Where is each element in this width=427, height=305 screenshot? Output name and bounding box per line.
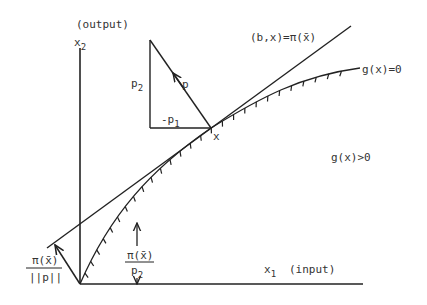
norm-numerator: π(x̄) <box>32 254 59 267</box>
hatch-mark <box>160 168 161 173</box>
hatch-mark <box>201 135 202 140</box>
hatch-mark <box>142 187 144 192</box>
hatch-mark <box>103 239 106 244</box>
hatch-mark <box>279 91 280 96</box>
intercept-numerator: π(x̄) <box>127 249 154 262</box>
p1-side-label: -p1 <box>161 113 180 129</box>
hatch-mark <box>85 273 88 277</box>
hatch-mark <box>151 177 152 182</box>
hatch-mark <box>117 217 119 222</box>
hatch-mark <box>91 261 94 266</box>
x1-axis-label: x1 <box>264 263 276 279</box>
norm-denominator: ||p|| <box>29 271 62 284</box>
price-vector-label: p <box>182 78 189 91</box>
hatch-mark <box>125 206 127 211</box>
point-x-label: x <box>213 130 220 143</box>
hatch-mark <box>97 250 100 255</box>
hatch-mark <box>170 160 171 165</box>
hatch-mark <box>291 86 292 91</box>
hyperplane-label: (b,x)=π(x̄) <box>250 31 316 44</box>
boundary-curve <box>80 68 360 284</box>
input-label: (input) <box>289 263 335 276</box>
boundary-label: g(x)=0 <box>362 63 402 76</box>
p2-side-label: p2 <box>131 77 143 93</box>
region-label: g(x)>0 <box>331 151 371 164</box>
hatch-mark <box>110 228 113 233</box>
intercept-denominator: p2 <box>131 264 143 280</box>
hatch-mark <box>190 143 191 148</box>
x2-axis-label: x2 <box>74 36 86 52</box>
output-label: (output) <box>76 18 129 31</box>
hatch-mark <box>180 151 181 156</box>
diagram-svg: (output) x2 x1 (input) (b,x)=π(x̄) g(x)=… <box>0 0 427 305</box>
boundary-hatching <box>85 71 342 278</box>
diagram-canvas: (output) x2 x1 (input) (b,x)=π(x̄) g(x)=… <box>0 0 427 305</box>
hatch-mark <box>133 196 135 201</box>
